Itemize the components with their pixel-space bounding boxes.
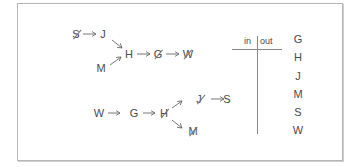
letter-J: J [295, 70, 301, 82]
edges [0, 0, 360, 167]
node-J: J [100, 28, 106, 40]
node-H: H [125, 48, 133, 60]
node-J2: J [196, 93, 202, 105]
letter-S: S [294, 106, 301, 118]
node-M2: M [188, 125, 197, 137]
node-W: W [183, 48, 193, 60]
node-G2: G [130, 107, 139, 119]
table-vline [257, 36, 258, 134]
col-in: in [244, 36, 251, 46]
node-G: G [154, 48, 163, 60]
letter-G: G [294, 33, 303, 45]
letter-M: M [293, 88, 302, 100]
node-W2: W [94, 107, 104, 119]
node-M: M [96, 62, 105, 74]
letter-H: H [294, 51, 302, 63]
node-H2: H [160, 107, 168, 119]
node-S2: S [223, 93, 230, 105]
col-out: out [260, 36, 273, 46]
letter-W: W [293, 124, 303, 136]
node-S: S [72, 28, 79, 40]
